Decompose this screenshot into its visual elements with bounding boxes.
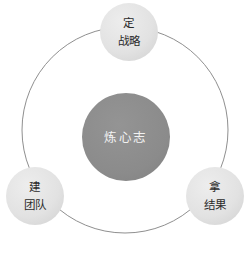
center-hub[interactable]: 炼心志 [82,93,170,181]
node-bottom-left-label-line2: 团队 [24,198,48,211]
diagram-canvas: 炼心志 定 战略 建 团队 拿 结果 [0,0,250,261]
node-bottom-right-label-line2: 结果 [204,199,228,211]
node-top-label-line1: 定 [123,16,135,29]
center-label: 炼心志 [104,130,148,145]
node-ding-zhanlue[interactable]: 定 战略 [100,3,158,61]
node-circle-bottom-right[interactable] [186,167,244,225]
node-circle-top[interactable] [100,3,158,61]
node-jian-tuandui[interactable]: 建 团队 [6,167,64,225]
node-bottom-right-label-line1: 拿 [209,180,221,193]
node-na-jieguo[interactable]: 拿 结果 [186,167,244,225]
node-top-label-line2: 战略 [118,34,142,47]
node-circle-bottom-left[interactable] [6,167,64,225]
node-bottom-left-label-line1: 建 [29,180,41,193]
circular-diagram: 炼心志 定 战略 建 团队 拿 结果 [0,0,250,261]
